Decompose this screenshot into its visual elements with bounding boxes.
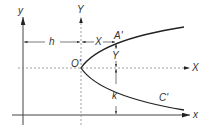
diagram-canvas: y Y x X O' A' C' h k X Y bbox=[0, 0, 210, 138]
k-label: k bbox=[112, 90, 118, 101]
y-axis-label: y bbox=[17, 5, 24, 16]
Y-dim-label: Y bbox=[112, 50, 120, 61]
Y-axis-label: Y bbox=[77, 4, 85, 15]
origin-prime-label: O' bbox=[71, 58, 82, 69]
h-label: h bbox=[49, 36, 55, 47]
point-A-label: A' bbox=[113, 30, 124, 41]
curve-C-label: C' bbox=[159, 92, 169, 103]
X-axis-label: X bbox=[191, 62, 199, 73]
X-dim-label: X bbox=[94, 36, 102, 47]
x-axis-label: x bbox=[192, 109, 199, 120]
